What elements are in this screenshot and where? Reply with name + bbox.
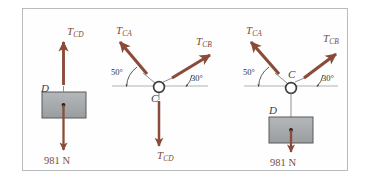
middle-label-tcb-sub: CB xyxy=(202,40,212,49)
middle-label-tca: TCA xyxy=(116,25,132,37)
middle-ring-c xyxy=(154,82,165,93)
right-stub-ca xyxy=(275,73,287,83)
right-label-tcb: TCB xyxy=(323,33,339,45)
middle-angle-left-arc xyxy=(127,67,138,87)
right-label-tca: TCA xyxy=(246,25,262,37)
middle-label-tcb: TCB xyxy=(196,36,212,48)
right-force-tca-arrow xyxy=(251,42,279,74)
right-label-c: C xyxy=(288,68,295,80)
left-label-tcd: TCD xyxy=(67,26,84,38)
middle-angle-left-label: 50° xyxy=(111,67,123,77)
middle-stub-ca xyxy=(143,73,155,83)
right-label-tca-sub: CA xyxy=(252,29,262,38)
left-label-weight: 981 N xyxy=(44,155,70,166)
right-angle-right-label: 30° xyxy=(322,73,334,83)
right-angle-left-arc xyxy=(259,67,270,87)
middle-angle-right-label: 30° xyxy=(191,73,203,83)
middle-label-tca-sub: CA xyxy=(122,29,132,38)
left-diagram xyxy=(42,42,86,150)
figure-canvas: TCD D 981 N TCA TCB TCD C 50° 30° TCA TC… xyxy=(0,0,370,184)
right-angle-left-label: 50° xyxy=(243,67,255,77)
right-label-weight: 981 N xyxy=(270,157,296,168)
left-label-d: D xyxy=(41,82,49,94)
middle-label-c: C xyxy=(151,92,158,104)
middle-force-tca-arrow xyxy=(120,42,147,74)
right-ring-c xyxy=(286,83,297,94)
middle-label-tcd: TCD xyxy=(157,150,174,162)
middle-diagram xyxy=(112,42,210,146)
right-diagram xyxy=(244,42,338,152)
right-label-d: D xyxy=(269,104,277,116)
middle-label-tcd-sub: CD xyxy=(163,154,174,163)
right-label-tcb-sub: CB xyxy=(329,37,339,46)
left-label-tcd-sub: CD xyxy=(73,30,84,39)
